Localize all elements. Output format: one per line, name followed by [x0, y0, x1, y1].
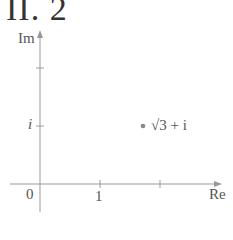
- imaginary-axis-arrow-icon: [37, 30, 43, 38]
- origin-label: 0: [26, 186, 34, 203]
- point-label: √3 + i: [151, 117, 187, 134]
- point-marker: [141, 124, 146, 129]
- y-tick-label: i: [28, 116, 32, 133]
- y-axis-label: Im: [18, 30, 35, 47]
- x-axis-label: Re: [209, 186, 226, 203]
- x-tick-label: 1: [95, 188, 103, 205]
